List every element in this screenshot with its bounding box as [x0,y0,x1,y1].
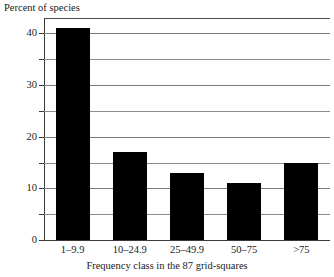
bar-series [44,18,330,240]
y-axis-tick-label: 10 [1,183,37,193]
x-axis-tick-labels: 1–9.910–24.925–49.950–75>75 [44,243,330,259]
bar [170,173,204,240]
x-axis-tick-label: 25–49.9 [158,243,215,256]
bar-chart-figure: Percent of species 010203040 1–9.910–24.… [0,0,334,277]
y-axis-tick-label: 20 [1,132,37,142]
y-axis-tick-label: 30 [1,80,37,90]
x-axis-tick-label: 1–9.9 [44,243,101,256]
bar [284,163,318,240]
bar [113,152,147,240]
x-axis-line [44,240,330,241]
y-axis-tick-label: 0 [1,235,37,245]
y-axis-tick-label: 40 [1,28,37,38]
x-axis-title: Frequency class in the 87 grid-squares [0,259,334,272]
bar [227,183,261,240]
y-axis-tick [39,240,44,241]
x-axis-tick-label: 10–24.9 [101,243,158,256]
x-axis-tick-label: >75 [273,243,330,256]
y-axis-tick-labels: 010203040 [0,0,37,277]
bar [56,28,90,240]
x-axis-tick-label: 50–75 [216,243,273,256]
